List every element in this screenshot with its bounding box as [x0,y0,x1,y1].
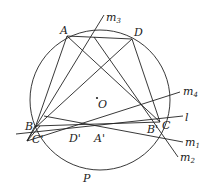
label-C-prime: C' [32,133,43,146]
label-P: P [82,172,91,185]
label-m2: m2 [180,151,195,165]
label-m1: m1 [185,136,200,150]
label-A-prime: A' [93,132,105,145]
label-B-prime: B' [146,123,158,136]
label-m4: m4 [183,85,198,99]
geometry-diagram: A D B C B' C' D' A' O P m3 m4 l m1 m2 [0,0,212,191]
diagram-svg: A D B C B' C' D' A' O P m3 m4 l m1 m2 [0,0,212,191]
label-m3: m3 [106,11,121,25]
label-B: B [24,120,33,133]
label-O: O [98,98,107,111]
segment-AD [67,36,132,39]
segment-DB [35,39,132,128]
label-C: C [162,119,171,132]
label-A: A [59,24,68,37]
label-l: l [185,111,189,124]
label-D: D [133,26,143,39]
segment-AC [67,36,160,122]
label-D-prime: D' [68,132,81,145]
